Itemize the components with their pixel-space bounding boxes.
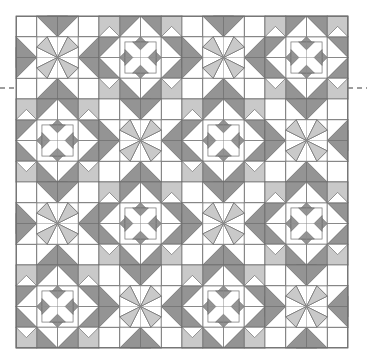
block-r0c0-star-cross-corner-tr [78,16,99,37]
block-r1c3-star-cross-corner-br [327,161,348,182]
block-r1c3-star-cross [265,99,348,182]
block-r0c2-star-cross-corner-tl [182,16,203,37]
block-r3c3-star-cross-corner-tl [265,265,286,286]
block-r3c2-square-diamond [182,265,265,348]
block-r0c2-star-cross-corner-tr [244,16,265,37]
block-r3c1-star-cross [99,265,182,348]
block-r1c3-star-cross-corner-tr [327,99,348,120]
block-r2c2-star-cross-corner-br [244,244,265,265]
block-r2c2-star-cross [182,182,265,265]
quilt-pattern: Quilt block tiling pattern Geometric pat… [0,0,367,363]
block-r1c1-star-cross-corner-tr [161,99,182,120]
block-r1c0-square-diamond [16,99,99,182]
block-r3c1-star-cross-corner-tr [161,265,182,286]
block-r0c3-square-diamond [265,16,348,99]
block-r2c0-star-cross-corner-br [78,244,99,265]
block-r3c0-square-diamond [16,265,99,348]
block-r2c0-star-cross-corner-bl [16,244,37,265]
block-r0c0-star-cross-corner-tl [16,16,37,37]
block-r0c2-star-cross [182,16,265,99]
block-r3c1-star-cross-corner-tl [99,265,120,286]
block-r2c2-star-cross-corner-tr [244,182,265,203]
figure-canvas: Quilt block tiling pattern Geometric pat… [0,0,367,363]
block-r2c0-star-cross-corner-tr [78,182,99,203]
block-r3c1-star-cross-corner-bl [99,327,120,348]
block-r1c3-star-cross-corner-bl [265,161,286,182]
quilt-blocks-layer [16,16,348,348]
block-r2c2-star-cross-corner-bl [182,244,203,265]
block-r3c3-star-cross-corner-bl [265,327,286,348]
block-r2c3-square-diamond [265,182,348,265]
block-r1c1-star-cross-corner-br [161,161,182,182]
block-r0c0-star-cross-corner-bl [16,78,37,99]
block-r2c0-star-cross-corner-tl [16,182,37,203]
block-r2c1-square-diamond [99,182,182,265]
block-r2c2-star-cross-corner-tl [182,182,203,203]
block-r3c1-star-cross-corner-br [161,327,182,348]
block-r0c2-star-cross-corner-br [244,78,265,99]
block-r1c1-star-cross [99,99,182,182]
block-r3c3-star-cross-corner-br [327,327,348,348]
block-r2c0-star-cross [16,182,99,265]
block-r1c2-square-diamond [182,99,265,182]
block-r1c1-star-cross-corner-bl [99,161,120,182]
block-r0c2-star-cross-corner-bl [182,78,203,99]
block-r0c0-star-cross [16,16,99,99]
block-r1c3-star-cross-corner-tl [265,99,286,120]
block-r3c3-star-cross [265,265,348,348]
block-r0c0-star-cross-corner-br [78,78,99,99]
block-r0c1-square-diamond [99,16,182,99]
block-r1c1-star-cross-corner-tl [99,99,120,120]
block-r3c3-star-cross-corner-tr [327,265,348,286]
